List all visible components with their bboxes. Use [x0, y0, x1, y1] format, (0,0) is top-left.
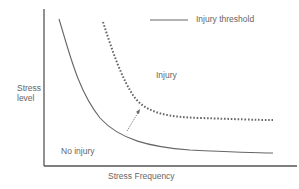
y-axis-label: Stress level: [17, 84, 47, 104]
y-axis-label-line2: level: [17, 94, 47, 104]
x-axis-label: Stress Frequency: [108, 172, 175, 182]
legend-label: Injury threshold: [196, 15, 254, 25]
injury-region-label: Injury: [156, 71, 177, 81]
injury-threshold-curve: [59, 19, 273, 153]
shift-arrow: [127, 111, 139, 131]
arrow-head-icon: [136, 109, 140, 114]
no-injury-region-label: No injury: [61, 147, 95, 157]
shifted-threshold-curve: [103, 22, 273, 120]
